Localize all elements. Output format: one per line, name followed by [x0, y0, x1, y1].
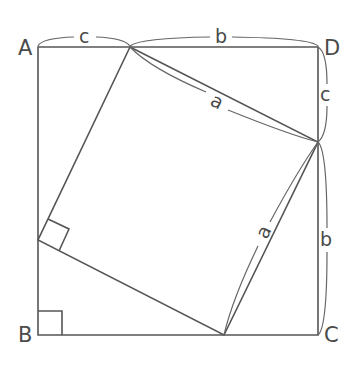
pythagoras-diagram: A D B C c b c b a a — [0, 0, 363, 374]
vertex-label-b: B — [18, 323, 32, 347]
vertex-label-c: C — [324, 323, 339, 347]
side-label-right-c: c — [320, 83, 330, 105]
inner-square — [38, 47, 318, 335]
side-label-right-b: b — [320, 228, 332, 250]
outer-square — [38, 47, 318, 335]
vertex-label-d: D — [324, 36, 340, 60]
side-label-top-b: b — [215, 25, 227, 47]
right-angle-mark-b — [38, 311, 62, 335]
side-label-top-c: c — [79, 25, 89, 47]
vertex-label-a: A — [18, 36, 33, 60]
side-label-inner-lower-a: a — [251, 222, 276, 242]
side-label-inner-upper-a: a — [207, 89, 227, 114]
